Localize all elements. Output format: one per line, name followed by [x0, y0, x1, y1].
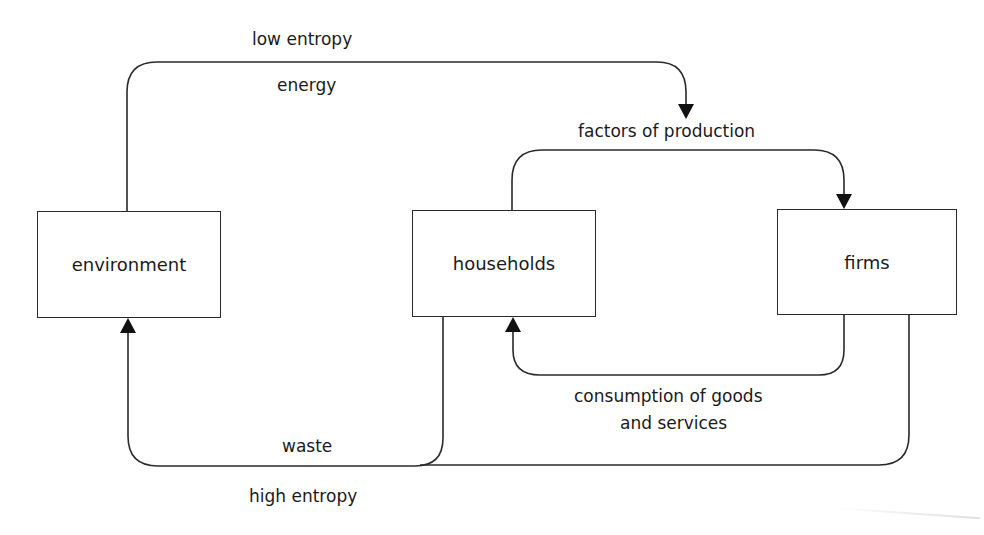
node-label: environment [72, 254, 187, 275]
label-factors-of-production: factors of production [578, 120, 755, 142]
arrow-up-icon [120, 318, 136, 333]
label-waste: waste [282, 435, 332, 457]
node-households: households [412, 210, 596, 317]
arrow-down-icon [678, 104, 694, 119]
label-consumption-line2: and services [620, 412, 727, 434]
consumption-flow-line [513, 314, 844, 375]
node-label: firms [844, 252, 889, 273]
node-firms: firms [777, 209, 957, 315]
node-label: households [453, 253, 556, 274]
factors-flow-line [512, 150, 844, 211]
label-consumption-line1: consumption of goods [574, 385, 763, 407]
label-energy: energy [277, 74, 336, 96]
arrow-up-icon [505, 317, 521, 332]
node-environment: environment [37, 211, 221, 318]
label-high-entropy: high entropy [249, 485, 357, 507]
label-low-entropy: low entropy [252, 28, 352, 50]
arrow-down-icon [836, 194, 852, 209]
